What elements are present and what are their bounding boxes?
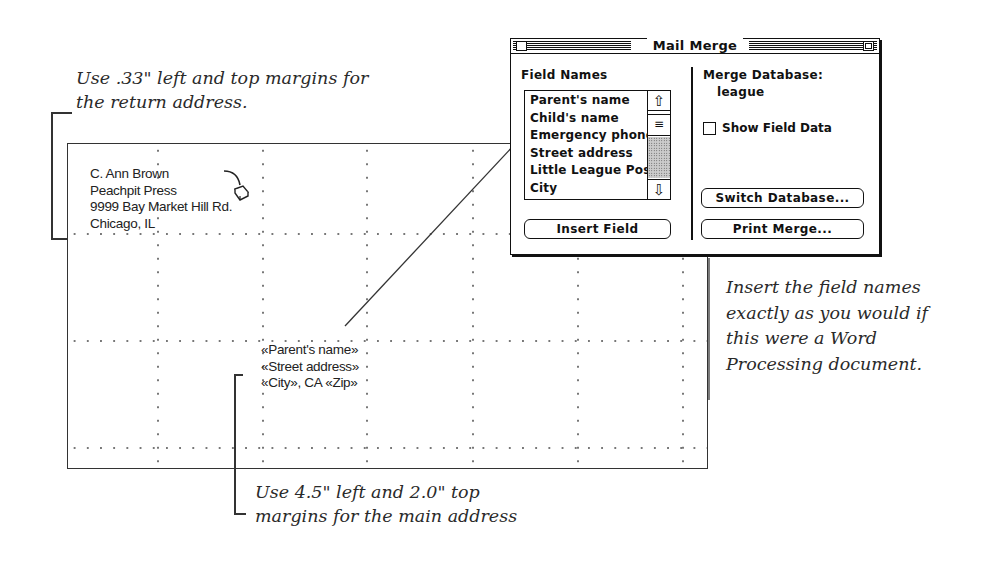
panel-divider (691, 67, 693, 240)
scroll-thumb[interactable]: ≡ (648, 114, 670, 136)
note-line: margins for the main address (255, 504, 517, 528)
bottom-note-bracket-bottom (234, 513, 246, 515)
mouse-icon (218, 165, 250, 205)
field-list-scrollbar[interactable]: ⇧ ≡ ⇩ (647, 91, 670, 199)
insert-field-names-note: Insert the field names exactly as you wo… (726, 275, 928, 377)
return-address-margin-note: Use .33" left and top margins for the re… (76, 66, 368, 114)
note-line: Insert the field names (726, 275, 928, 301)
grid-column-guide (472, 144, 474, 468)
scroll-track[interactable] (648, 137, 670, 178)
return-address-line: 9999 Bay Market Hill Rd. (90, 199, 232, 216)
top-note-bracket-vertical (51, 112, 53, 239)
field-name-item[interactable]: Emergency phone (530, 127, 648, 145)
top-note-bracket-tick (51, 112, 72, 114)
show-field-data-checkbox[interactable] (703, 122, 716, 135)
note-line: this were a Word (726, 326, 928, 352)
field-name-item[interactable]: Parent's name (530, 92, 648, 110)
field-name-item[interactable]: Street address (530, 145, 648, 163)
window-title-bar[interactable]: Mail Merge (511, 39, 879, 54)
grid-column-guide (262, 144, 264, 468)
show-field-data-label: Show Field Data (722, 121, 832, 135)
merge-database-value: league (717, 85, 764, 99)
print-merge-button[interactable]: Print Merge... (701, 219, 864, 239)
grid-row-guide (68, 340, 707, 342)
main-address-margin-note: Use 4.5" left and 2.0" top margins for t… (255, 480, 517, 528)
note-line: Processing document. (726, 352, 928, 378)
merge-field-line: «City», CA «Zip» (261, 375, 359, 392)
show-field-data-option[interactable]: Show Field Data (703, 121, 832, 135)
return-address-line: Peachpit Press (90, 183, 232, 200)
note-line: exactly as you would if (726, 301, 928, 327)
scroll-down-arrow-icon[interactable]: ⇩ (648, 179, 670, 199)
merge-database-label: Merge Database: (703, 68, 823, 82)
merge-field-line: «Parent's name» (261, 342, 359, 359)
return-address-line: Chicago, IL (90, 216, 232, 233)
grid-column-guide (366, 144, 368, 468)
field-name-item[interactable]: Child's name (530, 110, 648, 128)
return-address-block[interactable]: C. Ann Brown Peachpit Press 9999 Bay Mar… (90, 166, 232, 232)
insert-field-button[interactable]: Insert Field (524, 219, 671, 239)
merge-field-line: «Street address» (261, 359, 359, 376)
main-address-block[interactable]: «Parent's name» «Street address» «City»,… (261, 342, 359, 392)
note-line: Use 4.5" left and 2.0" top (255, 480, 517, 504)
field-name-item[interactable]: Little League Position (530, 162, 648, 180)
field-name-item[interactable]: City (530, 180, 648, 198)
field-names-list[interactable]: Parent's name Child's name Emergency pho… (524, 90, 671, 200)
note-line: the return address. (76, 90, 368, 114)
field-names-label: Field Names (521, 68, 608, 82)
note-line: Use .33" left and top margins for (76, 66, 368, 90)
bottom-note-bracket-vertical (234, 374, 236, 514)
return-address-line: C. Ann Brown (90, 166, 232, 183)
top-note-bracket-bottom (51, 238, 68, 240)
window-title: Mail Merge (647, 38, 743, 53)
mail-merge-window: Mail Merge Field Names Parent's name Chi… (510, 38, 880, 255)
grid-row-guide (68, 447, 707, 449)
scroll-up-arrow-icon[interactable]: ⇧ (648, 91, 670, 111)
switch-database-button[interactable]: Switch Database... (701, 188, 864, 208)
